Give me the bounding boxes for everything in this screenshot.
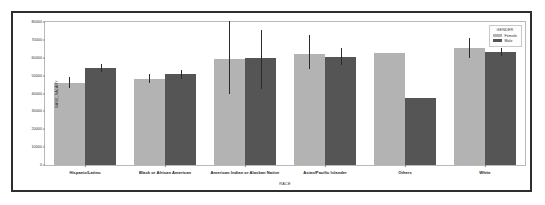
error-bar	[341, 48, 342, 65]
x-tick-label: Hispanic/Latino	[69, 170, 100, 175]
y-tick-mark	[43, 165, 45, 166]
x-tick-label: American Indian or Alaskan Native	[211, 170, 280, 175]
x-tick-label: Asian/Pacific Islander	[303, 170, 346, 175]
chart-figure: 0100002000030000400005000060000700008000…	[11, 11, 532, 192]
error-bar	[261, 30, 262, 89]
error-bar	[501, 48, 502, 56]
error-bar	[469, 38, 470, 59]
error-bar	[149, 74, 150, 83]
plot-frame: 0100002000030000400005000060000700008000…	[44, 21, 526, 166]
legend-swatch-icon	[493, 39, 502, 42]
x-tick-mark	[165, 165, 166, 167]
x-tick-label: Black or African American	[139, 170, 191, 175]
legend-label: Female	[504, 34, 517, 38]
bar-male-0	[85, 68, 116, 165]
y-tick-mark	[43, 147, 45, 148]
x-tick-mark	[85, 165, 86, 167]
x-tick-label: White	[479, 170, 490, 175]
y-tick-mark	[43, 39, 45, 40]
y-tick-mark	[43, 57, 45, 58]
y-tick-mark	[43, 75, 45, 76]
error-bar	[181, 70, 182, 78]
error-bar	[101, 64, 102, 73]
legend-label: Male	[504, 39, 512, 43]
x-tick-mark	[245, 165, 246, 167]
y-tick-mark	[43, 129, 45, 130]
bar-male-3	[325, 57, 356, 165]
bar-male-1	[165, 74, 196, 165]
bar-female-1	[134, 79, 165, 165]
legend-title: GENDER	[493, 28, 517, 32]
x-tick-label: Others	[398, 170, 412, 175]
chart-legend: GENDER FemaleMale	[489, 25, 522, 47]
bar-female-3	[294, 54, 325, 165]
legend-item-female[interactable]: Female	[493, 34, 517, 38]
bar-female-4	[374, 53, 405, 165]
legend-entries: FemaleMale	[493, 34, 517, 43]
bar-female-5	[454, 48, 485, 165]
error-bar	[309, 35, 310, 68]
x-tick-mark	[485, 165, 486, 167]
x-axis-title: RACE	[279, 182, 290, 186]
x-tick-mark	[405, 165, 406, 167]
bar-male-5	[485, 52, 516, 165]
legend-swatch-icon	[493, 34, 502, 37]
y-tick-mark	[43, 111, 45, 112]
y-axis-title: BASE_SALARY	[55, 80, 59, 107]
legend-item-male[interactable]: Male	[493, 39, 517, 43]
plot-area: 0100002000030000400005000060000700008000…	[45, 22, 525, 165]
error-bar	[69, 77, 70, 89]
y-tick-mark	[43, 93, 45, 94]
error-bar	[229, 21, 230, 94]
bar-male-4	[405, 98, 436, 165]
y-tick-mark	[43, 22, 45, 23]
x-tick-mark	[325, 165, 326, 167]
